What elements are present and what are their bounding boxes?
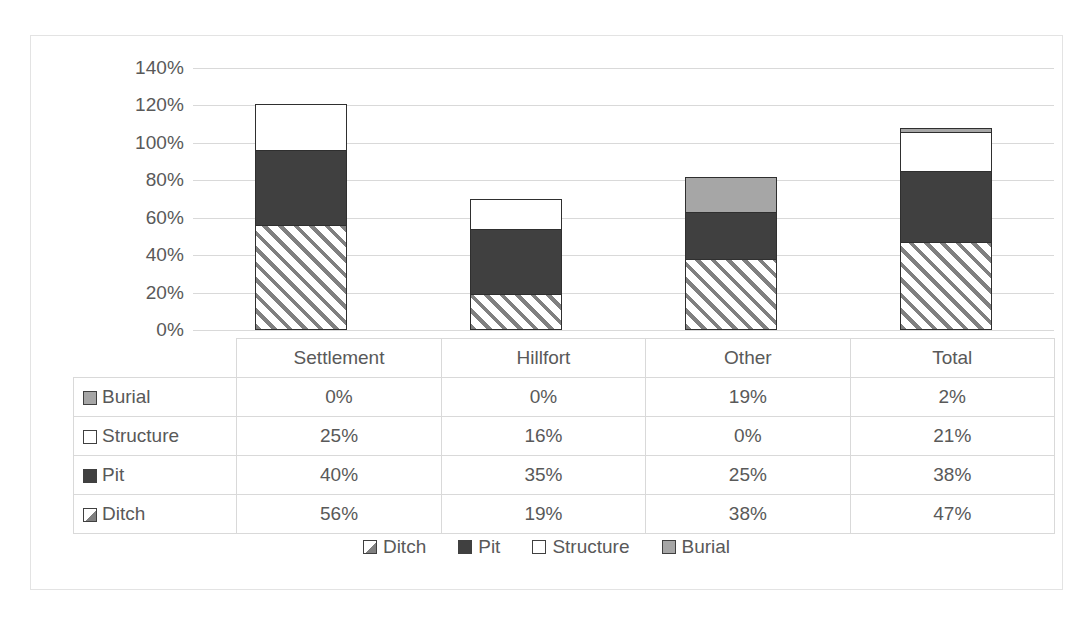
bar-segment-ditch[interactable]: [255, 225, 347, 330]
table-row: Structure25%16%0%21%: [74, 417, 1055, 456]
structure-swatch-icon: [532, 540, 546, 554]
y-axis-tick-label: 140%: [22, 57, 193, 79]
bar-segment-pit[interactable]: [685, 212, 777, 259]
bar-segment-pit[interactable]: [255, 150, 347, 225]
y-axis-tick-label: 100%: [22, 132, 193, 154]
table-row-header: Structure: [74, 417, 237, 456]
table-column-header: Other: [646, 339, 850, 378]
bar-segment-ditch[interactable]: [900, 242, 992, 330]
table-cell: 19%: [646, 378, 850, 417]
table-cell: 40%: [237, 456, 441, 495]
table-column-header: Total: [850, 339, 1054, 378]
table-cell: 56%: [237, 495, 441, 534]
table-row-label: Structure: [102, 425, 179, 446]
data-table: SettlementHillfortOtherTotalBurial0%0%19…: [73, 338, 1055, 534]
bar-segment-pit[interactable]: [900, 171, 992, 242]
table-cell: 0%: [441, 378, 645, 417]
bar-group: [193, 36, 408, 338]
table-header-row: SettlementHillfortOtherTotal: [74, 339, 1055, 378]
bars-layer: [193, 36, 1054, 338]
bar-segment-structure[interactable]: [255, 104, 347, 151]
table-cell: 25%: [646, 456, 850, 495]
bar-group: [839, 36, 1054, 338]
legend-item-pit[interactable]: Pit: [458, 536, 500, 558]
ditch-swatch-icon: [83, 508, 97, 522]
legend-item-burial[interactable]: Burial: [662, 536, 731, 558]
bar-group: [408, 36, 623, 338]
table-row: Ditch56%19%38%47%: [74, 495, 1055, 534]
table-cell: 0%: [237, 378, 441, 417]
table-column-header: Hillfort: [441, 339, 645, 378]
burial-swatch-icon: [83, 391, 97, 405]
table-row-header: Ditch: [74, 495, 237, 534]
structure-swatch-icon: [83, 430, 97, 444]
table-row: Pit40%35%25%38%: [74, 456, 1055, 495]
stacked-bar[interactable]: [470, 199, 562, 330]
y-axis-tick-label: 20%: [22, 282, 193, 304]
legend-item-label: Burial: [682, 536, 731, 558]
table-cell: 25%: [237, 417, 441, 456]
table-cell: 47%: [850, 495, 1054, 534]
table-row-label: Ditch: [102, 503, 145, 524]
table-cell: 2%: [850, 378, 1054, 417]
burial-swatch-icon: [662, 540, 676, 554]
plot-area: 0%20%40%60%80%100%120%140%: [31, 36, 1064, 338]
legend-item-structure[interactable]: Structure: [532, 536, 629, 558]
table-column-header: Settlement: [237, 339, 441, 378]
table-row-label: Pit: [102, 464, 124, 485]
ditch-swatch-icon: [363, 540, 377, 554]
table-cell: 19%: [441, 495, 645, 534]
legend-item-label: Ditch: [383, 536, 426, 558]
table-row-header: Burial: [74, 378, 237, 417]
bar-segment-structure[interactable]: [470, 199, 562, 229]
bar-group: [624, 36, 839, 338]
stacked-bar[interactable]: [685, 177, 777, 330]
y-axis: 0%20%40%60%80%100%120%140%: [31, 36, 193, 338]
bar-segment-ditch[interactable]: [470, 294, 562, 330]
y-axis-tick-label: 60%: [22, 207, 193, 229]
y-axis-tick-label: 40%: [22, 244, 193, 266]
table-corner-cell: [74, 339, 237, 378]
bar-segment-structure[interactable]: [900, 132, 992, 171]
legend-item-label: Pit: [478, 536, 500, 558]
table-row-label: Burial: [102, 386, 151, 407]
stacked-bar[interactable]: [255, 104, 347, 330]
table-cell: 21%: [850, 417, 1054, 456]
pit-swatch-icon: [458, 540, 472, 554]
legend-item-label: Structure: [552, 536, 629, 558]
table-row-header: Pit: [74, 456, 237, 495]
stacked-bar[interactable]: [900, 128, 992, 330]
chart-frame: 0%20%40%60%80%100%120%140% SettlementHil…: [30, 35, 1063, 590]
bar-segment-ditch[interactable]: [685, 259, 777, 330]
table-cell: 35%: [441, 456, 645, 495]
bar-segment-burial[interactable]: [685, 177, 777, 213]
table-cell: 38%: [850, 456, 1054, 495]
y-axis-tick-label: 120%: [22, 94, 193, 116]
chart-legend: DitchPitStructureBurial: [31, 536, 1062, 558]
table-cell: 38%: [646, 495, 850, 534]
bar-segment-pit[interactable]: [470, 229, 562, 295]
pit-swatch-icon: [83, 469, 97, 483]
table-cell: 16%: [441, 417, 645, 456]
legend-item-ditch[interactable]: Ditch: [363, 536, 426, 558]
table-row: Burial0%0%19%2%: [74, 378, 1055, 417]
table-cell: 0%: [646, 417, 850, 456]
y-axis-tick-label: 80%: [22, 169, 193, 191]
